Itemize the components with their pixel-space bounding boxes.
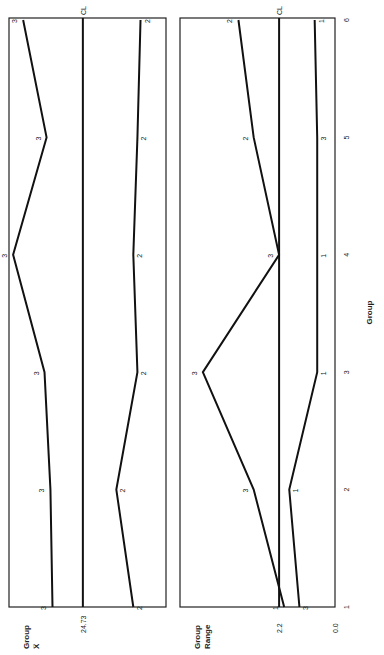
range-point-label: 3 xyxy=(191,371,198,375)
range-point-label: 3 xyxy=(267,254,274,258)
group-tick-label: 6 xyxy=(343,18,350,22)
xbar-point-label: 3 xyxy=(40,606,47,610)
xbar-point-label: 3 xyxy=(33,371,40,375)
xbar-cl-label: CL xyxy=(80,6,87,15)
xbar-point-label: 2 xyxy=(136,254,143,258)
xbar-point-label: 3 xyxy=(38,489,45,493)
range-axis-title: Range xyxy=(203,624,212,649)
group-tick-label: 2 xyxy=(343,488,350,492)
xbar-point-label: 2 xyxy=(140,371,147,375)
range-axis-title: Group xyxy=(193,625,202,649)
range-series-min xyxy=(289,20,317,607)
xbar-axis-title: X̅ xyxy=(32,643,41,649)
range-point-label: 2 xyxy=(226,19,233,23)
xbar-point-label: 2 xyxy=(136,606,143,610)
xbar-point-label: 3 xyxy=(11,19,18,23)
xbar-point-label: 2 xyxy=(144,19,151,23)
range-cl-label: CL xyxy=(276,6,283,15)
range-panel: CL2.2133322311131GroupRange0.0 xyxy=(180,6,339,649)
xbar-point-label: 3 xyxy=(1,254,8,258)
xbar-point-label: 2 xyxy=(119,489,126,493)
range-point-label: 1 xyxy=(320,254,327,258)
control-chart: CL24.73333333222222GroupX̅ CL2.213332231… xyxy=(0,0,384,655)
range-point-label: 2 xyxy=(242,136,249,140)
range-point-label: 3 xyxy=(320,136,327,140)
xbar-plot-frame xyxy=(9,18,166,607)
xbar-series-max xyxy=(13,20,52,607)
range-point-label: 1 xyxy=(318,19,325,23)
range-plot-frame xyxy=(180,18,335,607)
xbar-point-label: 3 xyxy=(35,136,42,140)
group-tick-label: 3 xyxy=(343,370,350,374)
xbar-axis-title: Group xyxy=(22,625,31,649)
xbar-point-label: 2 xyxy=(140,136,147,140)
xbar-cl-value-label: 24.73 xyxy=(80,615,87,633)
range-point-label: 1 xyxy=(272,606,279,610)
range-point-label: 3 xyxy=(302,606,309,610)
group-axis-title: Group xyxy=(365,300,374,324)
xbar-series-min xyxy=(116,20,140,607)
range-cl-value-label: 2.2 xyxy=(276,623,283,633)
xbar-panel: CL24.73333333222222GroupX̅ xyxy=(1,6,166,649)
range-series-max xyxy=(203,20,284,607)
range-point-label: 3 xyxy=(242,489,249,493)
range-point-label: 1 xyxy=(320,371,327,375)
group-axis: 123456Group xyxy=(343,18,374,609)
range-point-label: 1 xyxy=(292,489,299,493)
group-tick-label: 5 xyxy=(343,135,350,139)
group-tick-label: 1 xyxy=(343,605,350,609)
group-tick-label: 4 xyxy=(343,253,350,257)
range-tick-zero: 0.0 xyxy=(332,623,339,633)
